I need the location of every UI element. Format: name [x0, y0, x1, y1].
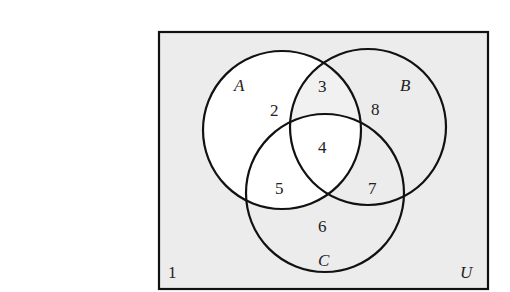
set-label-a: A [233, 76, 245, 95]
set-label-b: B [400, 76, 411, 95]
region-label-5: 5 [275, 179, 284, 198]
venn-diagram: A B C U 1 2 3 4 5 6 7 8 [0, 0, 510, 292]
region-label-8: 8 [371, 100, 380, 119]
region-label-1: 1 [168, 263, 177, 282]
region-label-2: 2 [270, 101, 279, 120]
universe-label: U [460, 263, 474, 282]
set-label-c: C [318, 251, 330, 270]
region-label-3: 3 [318, 77, 327, 96]
region-label-4: 4 [318, 138, 327, 157]
region-label-6: 6 [318, 217, 327, 236]
region-label-7: 7 [368, 179, 377, 198]
